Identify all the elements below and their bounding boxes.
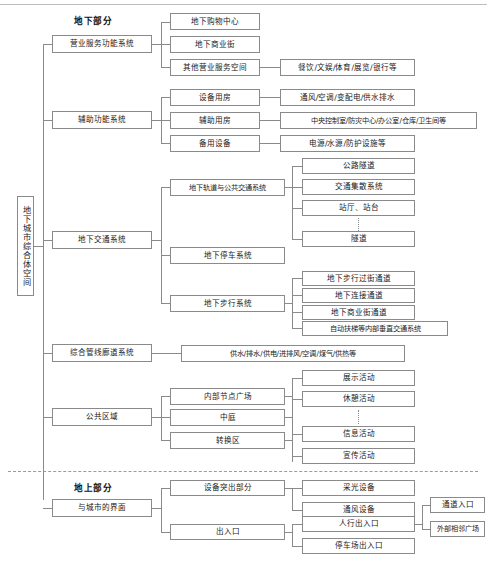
leaf-node-5-0-1-label: 通风设备 <box>343 506 375 514</box>
subnode-2-2-c0 <box>292 278 302 279</box>
leaf-node-1-0[interactable]: 设备用房 <box>170 89 260 106</box>
root-trunk <box>43 44 44 500</box>
activity-node-0-label: 展示活动 <box>343 374 375 382</box>
leaf-node-2-2-0[interactable]: 地下步行过街通道 <box>302 271 415 286</box>
leaf-node-2-0-3[interactable]: 隧道 <box>302 231 415 247</box>
leaf-node-2-0-0[interactable]: 公路隧道 <box>302 158 415 174</box>
leaf-node-2-0-3-label: 隧道 <box>351 235 367 243</box>
subnode-5-1-label: 出入口 <box>216 528 240 536</box>
branch-1-child-1-link <box>161 120 170 121</box>
branch-5-c0 <box>161 488 170 489</box>
leaf-0-2-out <box>260 67 280 68</box>
leaf-node-4-1[interactable]: 中庭 <box>170 409 285 426</box>
leaf-node-5-1-1-label: 停车场出入口 <box>335 542 383 550</box>
leaf-node-1-2[interactable]: 备用设备 <box>170 135 260 152</box>
leaf-node-2-2-3[interactable]: 自动扶梯等内部垂直交通系统 <box>302 321 448 336</box>
leaf-node-0-2-0[interactable]: 餐饮/文娱/体育/展览/银行等 <box>280 59 415 76</box>
branch-2-child-1-link <box>161 255 170 256</box>
leaf-node-2-2-1[interactable]: 地下连接通道 <box>302 288 415 303</box>
branch-0-child-0-link <box>161 22 170 23</box>
subnode-2-2-bus <box>292 278 293 328</box>
leaf-node-4-0[interactable]: 内部节点广场 <box>170 388 285 405</box>
branch-node-4[interactable]: 公共区域 <box>52 408 152 426</box>
leaf-node-2-0-2[interactable]: 站厅、站台 <box>302 200 415 216</box>
subnode-2-2-label: 地下步行系统 <box>204 300 252 308</box>
root-to-trunk <box>34 246 44 247</box>
activity-node-1[interactable]: 休憩活动 <box>302 391 415 407</box>
leaf-node-1-0-0-label: 通风/空调/变配电/供水排水 <box>300 94 396 102</box>
activity-node-3[interactable]: 宣传活动 <box>302 448 415 464</box>
entrance-node-0[interactable]: 通道入口 <box>430 497 485 513</box>
subnode-5-0-c0 <box>292 488 302 489</box>
leaf-node-1-0-label: 设备用房 <box>199 94 231 102</box>
subnode-2-1[interactable]: 地下停车系统 <box>170 247 285 264</box>
root-node[interactable]: 地下城市综合体空间 <box>17 196 34 296</box>
leaf-node-0-1[interactable]: 地下商业街 <box>170 36 260 53</box>
leaf-node-2-2-0-label: 地下步行过街通道 <box>327 275 391 283</box>
leaf-node-2-2-3-label: 自动扶梯等内部垂直交通系统 <box>330 325 421 332</box>
leaf-node-1-0-0[interactable]: 通风/空调/变配电/供水排水 <box>280 89 415 106</box>
branch-0-child-2-link <box>161 67 170 68</box>
activity-c3 <box>292 456 302 457</box>
leaf-node-1-2-label: 备用设备 <box>199 140 231 148</box>
leaf-node-1-1[interactable]: 辅助用房 <box>170 112 260 129</box>
branch-node-0[interactable]: 营业服务功能系统 <box>52 35 152 53</box>
activity-c2 <box>292 434 302 435</box>
leaf-node-2-2-2[interactable]: 地下商业街通道 <box>302 305 415 320</box>
branch-node-1[interactable]: 辅助功能系统 <box>52 111 152 129</box>
leaf-node-3-0[interactable]: 供水/排水/供电/进排风/空调/煤气/供热等 <box>181 345 405 362</box>
subnode-2-0[interactable]: 地下轨道与公共交通系统 <box>170 179 285 196</box>
leaf-node-2-2-2-label: 地下商业街通道 <box>331 309 387 317</box>
branch-4-c0 <box>161 396 170 397</box>
section-label-aboveground: 地上部分 <box>74 481 112 493</box>
branch-4-c1 <box>161 417 170 418</box>
branch-1-child-0-link <box>161 97 170 98</box>
activity-c1 <box>292 399 302 400</box>
top-rule <box>0 4 487 5</box>
branch-node-2-label: 地下交通系统 <box>78 236 126 244</box>
leaf-5-1-0-c1 <box>422 529 430 530</box>
leaf-node-5-1-1[interactable]: 停车场出入口 <box>302 538 415 554</box>
subnode-5-0[interactable]: 设备突出部分 <box>170 480 285 496</box>
branch-node-3[interactable]: 综合管线廊道系统 <box>52 344 152 362</box>
leaf-node-1-2-0[interactable]: 电源/水源/防护设施等 <box>280 135 415 152</box>
subnode-5-1-c1 <box>292 546 302 547</box>
subnode-5-1[interactable]: 出入口 <box>170 524 285 540</box>
subnode-2-0-c1 <box>292 187 302 188</box>
subnode-2-2[interactable]: 地下步行系统 <box>170 295 285 312</box>
leaf-node-5-0-0[interactable]: 采光设备 <box>302 480 415 496</box>
subnode-5-0-bus <box>292 488 293 510</box>
leaf-node-2-0-1-label: 交通集散系统 <box>335 183 383 191</box>
entrance-node-1-label: 外部相邻广场 <box>437 525 479 532</box>
section-divider <box>8 471 478 472</box>
leaf-node-2-2-1-label: 地下连接通道 <box>335 292 383 300</box>
leaf-node-5-0-0-label: 采光设备 <box>343 484 375 492</box>
branch-node-5[interactable]: 与城市的界面 <box>52 499 152 517</box>
leaf-node-2-0-1[interactable]: 交通集散系统 <box>302 179 415 195</box>
branch-5-c1 <box>161 532 170 533</box>
leaf-node-4-2[interactable]: 转换区 <box>170 432 285 449</box>
leaf-node-0-2[interactable]: 其他营业服务空间 <box>170 59 260 76</box>
leaf-node-0-0[interactable]: 地下购物中心 <box>170 13 260 30</box>
leaf-node-5-1-0[interactable]: 人行出入口 <box>302 516 415 532</box>
subnode-2-2-c3 <box>292 328 302 329</box>
subnode-2-0-label: 地下轨道与公共交通系统 <box>189 184 266 191</box>
leaf-node-0-0-label: 地下购物中心 <box>191 18 239 26</box>
activity-node-2[interactable]: 信息活动 <box>302 426 415 442</box>
activities-bus <box>292 378 293 462</box>
leaf-node-3-0-label: 供水/排水/供电/进排风/空调/煤气/供热等 <box>230 350 357 357</box>
entrance-node-1[interactable]: 外部相邻广场 <box>430 521 485 537</box>
section-label-underground: 地下部分 <box>74 14 112 26</box>
leaf-1-0-out <box>260 97 280 98</box>
leaf-5-1-0-c0 <box>422 505 430 506</box>
entrance-node-0-label: 通道入口 <box>442 501 474 509</box>
activity-node-3-label: 宣传活动 <box>343 452 375 460</box>
ellipsis-connector-activities <box>358 410 359 424</box>
branch-node-4-label: 公共区域 <box>86 413 118 421</box>
branch-node-2[interactable]: 地下交通系统 <box>52 231 152 249</box>
leaf-node-1-1-0[interactable]: 中央控制室/防灾中心/办公室/仓库/卫生间等 <box>280 112 477 129</box>
leaf-node-4-2-label: 转换区 <box>216 437 240 445</box>
activity-node-0[interactable]: 展示活动 <box>302 370 415 386</box>
branch-0-child-1-link <box>161 44 170 45</box>
subnode-5-0-c1 <box>292 510 302 511</box>
